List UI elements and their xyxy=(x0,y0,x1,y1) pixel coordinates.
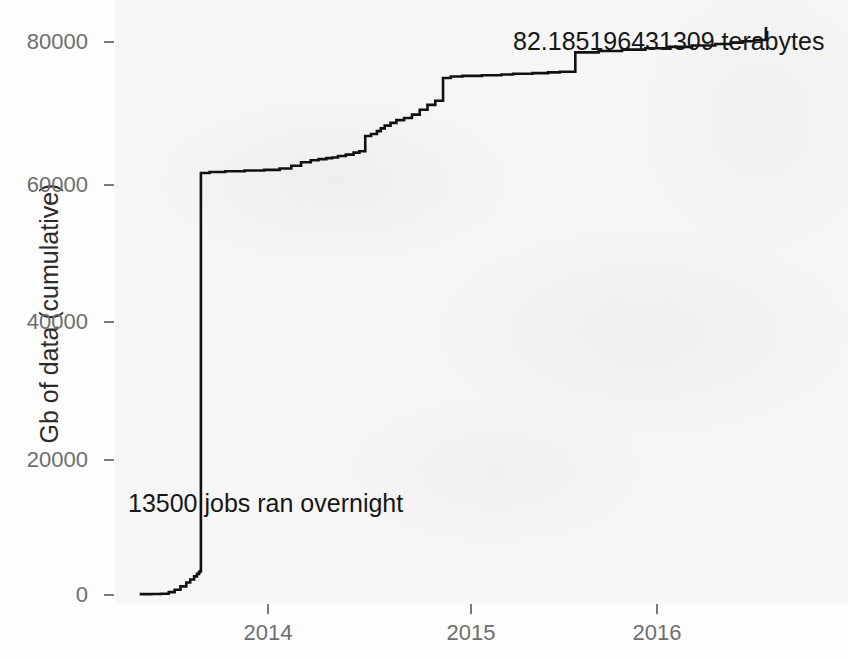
x-tick-label-2014: 2014 xyxy=(244,620,293,646)
y-axis-ticks: 80000 60000 40000 20000 0 xyxy=(0,0,88,603)
x-tick-mark-2015 xyxy=(470,604,472,614)
x-tick-label-2016: 2016 xyxy=(633,620,682,646)
x-tick-mark-2014 xyxy=(267,604,269,614)
y-tick-label-0: 0 xyxy=(10,582,88,608)
y-tick-label-20000: 20000 xyxy=(10,447,88,473)
y-tick-label-80000: 80000 xyxy=(10,29,88,55)
y-tick-mark-60000 xyxy=(104,184,114,186)
y-tick-mark-40000 xyxy=(104,321,114,323)
chart-figure: Gb of data (cumulative) 80000 60000 4000… xyxy=(0,0,848,659)
annotation-jobs-overnight: 13500 jobs ran overnight xyxy=(128,489,403,518)
y-tick-mark-20000 xyxy=(104,459,114,461)
annotation-total-terabytes: 82.185196431309 terabytes xyxy=(513,27,824,56)
y-tick-mark-0 xyxy=(104,594,114,596)
x-tick-mark-2016 xyxy=(656,604,658,614)
y-tick-mark-80000 xyxy=(104,41,114,43)
y-tick-label-60000: 60000 xyxy=(10,172,88,198)
y-tick-label-40000: 40000 xyxy=(10,309,88,335)
x-tick-label-2015: 2015 xyxy=(447,620,496,646)
